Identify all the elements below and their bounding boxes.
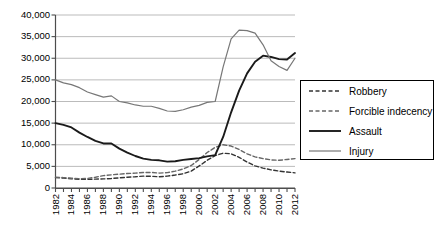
legend-item-label: Robbery — [349, 86, 387, 97]
legend-item-label: Assault — [349, 126, 382, 137]
legend-item: Assault — [301, 121, 435, 141]
x-axis-label: 2000 — [193, 194, 204, 215]
legend-line-swatch — [308, 125, 342, 137]
x-axis-label: 2012 — [289, 194, 300, 215]
x-axis-label: 1994 — [145, 194, 156, 215]
legend-line-swatch — [308, 85, 342, 97]
x-axis-label: 2004 — [225, 194, 236, 215]
x-axis-label: 1996 — [161, 194, 172, 215]
legend-item: Robbery — [301, 81, 435, 101]
x-axis-label: 1988 — [97, 194, 108, 215]
x-axis-label: 1992 — [129, 194, 140, 215]
line-chart: 40,00035,00030,00025,00020,00015,00010,0… — [0, 0, 440, 241]
x-axis-label: 1990 — [113, 194, 124, 215]
x-axis-label: 1984 — [65, 194, 76, 215]
legend-item: Forcible indecency — [301, 101, 435, 121]
x-axis-label: 1998 — [177, 194, 188, 215]
x-axis-label: 1982 — [50, 194, 61, 215]
x-axis-label: 1986 — [81, 194, 92, 215]
legend-line-swatch — [308, 145, 342, 157]
legend-item-label: Injury — [349, 146, 373, 157]
legend-line-swatch — [308, 105, 342, 117]
x-axis-label: 2002 — [209, 194, 220, 215]
x-axis-label: 2008 — [257, 194, 268, 215]
legend-item: Injury — [301, 141, 435, 161]
chart-legend: RobberyForcible indecencyAssaultInjury — [300, 80, 434, 160]
legend-item-label: Forcible indecency — [349, 106, 432, 117]
x-axis-label: 2006 — [241, 194, 252, 215]
x-axis-label: 2010 — [273, 194, 284, 215]
